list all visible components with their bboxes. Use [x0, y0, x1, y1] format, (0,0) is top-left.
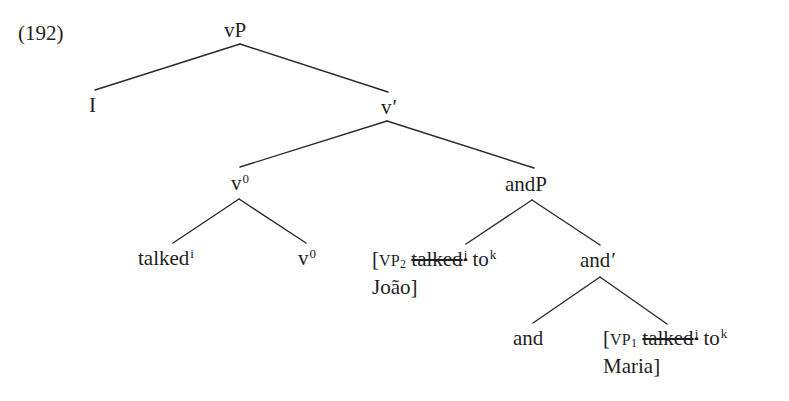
edge-vbar-v0 [240, 121, 387, 167]
vp1-bracket: [ [603, 326, 610, 350]
vp2-category: VP [379, 252, 400, 269]
node-v0-leaf-label: v [298, 246, 309, 270]
node-v0-head: v0 [231, 171, 249, 195]
prime-mark: ′ [611, 248, 616, 272]
vp1-prep-index: k [721, 326, 728, 341]
vp1-deleted-verb-text: talked [642, 326, 693, 350]
node-talked-label: talked [138, 246, 189, 270]
node-v-bar: v′ [381, 95, 397, 119]
node-andP: andP [505, 172, 547, 196]
node-talked: talkedi [138, 246, 194, 270]
node-vp2: [VP2 talkedi tok João] [372, 246, 496, 300]
prime-mark: ′ [393, 95, 398, 119]
edge-andP-andbar [532, 200, 600, 245]
vp2-line2: João] [372, 274, 496, 300]
vp2-subscript: 2 [400, 257, 406, 271]
edge-vbar-andP [387, 121, 534, 168]
vp1-preposition: to [704, 326, 720, 350]
vp1-deleted-index: i [695, 326, 699, 341]
superscript-zero: 0 [310, 246, 317, 261]
index-i: i [190, 246, 194, 261]
superscript-zero: 0 [243, 171, 250, 186]
vp1-subscript: 1 [631, 336, 637, 350]
node-and-head-label: and [513, 326, 543, 350]
vp2-deleted-verb-text: talked [411, 247, 462, 271]
vp2-prep-index: k [490, 247, 497, 262]
vp1-line1: [VP1 talkedi tok [603, 325, 727, 353]
node-v-bar-label: v [381, 95, 392, 119]
edge-andbar-vp1 [600, 277, 667, 324]
syntax-tree-diagram: (192) vP I v′ v0 andP talkedi v0 [VP2 ta… [0, 0, 789, 401]
node-I-label: I [89, 93, 96, 117]
vp2-preposition: to [473, 247, 489, 271]
node-vP: vP [224, 18, 246, 42]
node-and-bar: and′ [580, 248, 616, 272]
vp2-deleted-verb: talkedi [411, 247, 467, 271]
node-and-bar-label: and [580, 248, 610, 272]
node-v0-head-label: v [231, 171, 242, 195]
node-vp1: [VP1 talkedi tok Maria] [603, 325, 727, 379]
edge-andbar-and [533, 277, 600, 323]
edge-v0-v0leaf [239, 199, 306, 243]
edge-andP-vp2 [466, 200, 532, 244]
node-vP-label: vP [224, 18, 246, 42]
vp1-category: VP [610, 331, 631, 348]
vp2-line1: [VP2 talkedi tok [372, 246, 496, 274]
edge-v0-talked [173, 199, 239, 243]
node-v0-leaf: v0 [298, 246, 316, 270]
node-I: I [89, 93, 96, 117]
vp2-bracket: [ [372, 247, 379, 271]
vp1-deleted-verb: talkedi [642, 326, 698, 350]
node-andP-label: andP [505, 172, 547, 196]
node-and-head: and [513, 326, 543, 350]
vp2-deleted-index: i [464, 247, 468, 262]
vp1-line2: Maria] [603, 353, 727, 379]
edge-vP-vbar [240, 44, 388, 92]
example-number: (192) [18, 21, 64, 45]
edge-vP-I [95, 44, 240, 90]
